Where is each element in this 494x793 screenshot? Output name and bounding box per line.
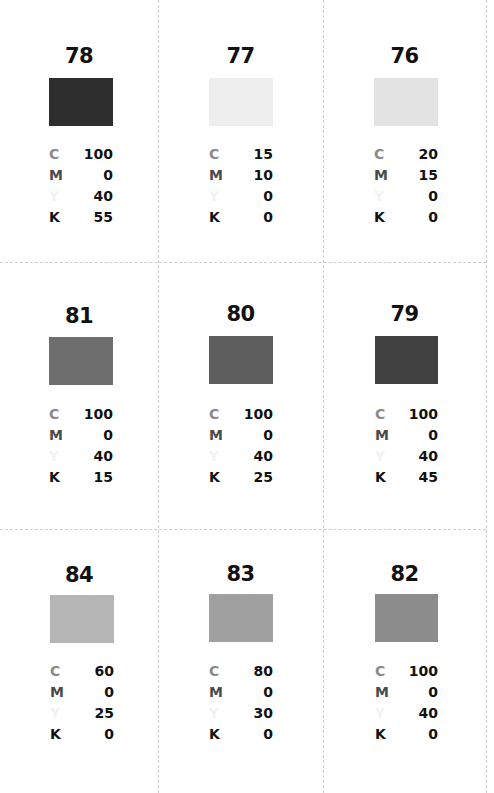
label-y: Y xyxy=(209,446,225,467)
value-k: 0 xyxy=(428,207,438,228)
value-y: 25 xyxy=(95,703,114,724)
label-m: M xyxy=(375,425,391,446)
value-k: 25 xyxy=(254,467,273,488)
label-c: C xyxy=(49,144,65,165)
value-y: 0 xyxy=(263,186,273,207)
color-swatch xyxy=(49,78,113,126)
label-y: Y xyxy=(374,186,390,207)
label-c: C xyxy=(50,661,66,682)
value-k: 0 xyxy=(428,724,438,745)
label-c: C xyxy=(209,661,225,682)
label-k: K xyxy=(49,467,65,488)
label-c: C xyxy=(49,404,65,425)
value-m: 10 xyxy=(254,165,273,186)
value-c: 100 xyxy=(244,404,273,425)
swatch-number: 80 xyxy=(158,302,323,326)
value-c: 60 xyxy=(95,661,114,682)
label-m: M xyxy=(209,165,225,186)
color-swatch xyxy=(50,595,114,643)
label-y: Y xyxy=(50,703,66,724)
cmyk-values: C60 M0 Y25 K0 xyxy=(50,661,114,745)
label-y: Y xyxy=(49,186,65,207)
color-swatch xyxy=(375,594,438,642)
value-k: 45 xyxy=(419,467,438,488)
cmyk-values: C100 M0 Y40 K0 xyxy=(375,661,438,745)
color-swatch xyxy=(49,337,113,385)
label-c: C xyxy=(374,144,390,165)
color-swatch xyxy=(375,336,438,384)
value-y: 40 xyxy=(419,446,438,467)
label-m: M xyxy=(49,425,65,446)
value-y: 40 xyxy=(94,446,113,467)
value-c: 80 xyxy=(254,661,273,682)
label-y: Y xyxy=(49,446,65,467)
value-k: 55 xyxy=(94,207,113,228)
label-m: M xyxy=(209,425,225,446)
value-c: 100 xyxy=(409,404,438,425)
label-c: C xyxy=(209,404,225,425)
value-m: 0 xyxy=(103,425,113,446)
value-k: 0 xyxy=(104,724,114,745)
value-m: 0 xyxy=(428,425,438,446)
label-m: M xyxy=(374,165,390,186)
color-swatch xyxy=(209,336,273,384)
value-y: 40 xyxy=(419,703,438,724)
label-c: C xyxy=(375,404,391,425)
color-swatch xyxy=(209,594,273,642)
cmyk-values: C15 M10 Y0 K0 xyxy=(209,144,273,228)
swatch-number: 84 xyxy=(0,563,158,587)
value-m: 0 xyxy=(263,682,273,703)
value-k: 0 xyxy=(263,207,273,228)
label-m: M xyxy=(375,682,391,703)
label-k: K xyxy=(209,467,225,488)
swatch-card: 84 C60 M0 Y25 K0 xyxy=(0,529,158,793)
label-k: K xyxy=(375,467,391,488)
swatch-number: 79 xyxy=(323,302,486,326)
swatch-card: 76 C20 M15 Y0 K0 xyxy=(323,0,486,262)
swatch-number: 76 xyxy=(323,44,486,68)
swatch-number: 81 xyxy=(0,304,158,328)
value-m: 15 xyxy=(419,165,438,186)
value-c: 20 xyxy=(419,144,438,165)
label-c: C xyxy=(375,661,391,682)
swatch-card: 78 C100 M0 Y40 K55 xyxy=(0,0,158,262)
label-k: K xyxy=(209,724,225,745)
swatch-card: 83 C80 M0 Y30 K0 xyxy=(158,529,323,793)
value-c: 100 xyxy=(84,404,113,425)
label-y: Y xyxy=(375,446,391,467)
value-k: 0 xyxy=(263,724,273,745)
swatch-card: 80 C100 M0 Y40 K25 xyxy=(158,262,323,529)
label-k: K xyxy=(374,207,390,228)
value-y: 40 xyxy=(94,186,113,207)
swatch-number: 78 xyxy=(0,44,158,68)
value-c: 15 xyxy=(254,144,273,165)
cmyk-values: C100 M0 Y40 K55 xyxy=(49,144,113,228)
swatch-number: 77 xyxy=(158,44,323,68)
label-m: M xyxy=(209,682,225,703)
swatch-card: 82 C100 M0 Y40 K0 xyxy=(323,529,486,793)
label-c: C xyxy=(209,144,225,165)
label-m: M xyxy=(50,682,66,703)
value-m: 0 xyxy=(103,165,113,186)
label-y: Y xyxy=(209,703,225,724)
value-y: 40 xyxy=(254,446,273,467)
value-c: 100 xyxy=(84,144,113,165)
swatch-number: 83 xyxy=(158,562,323,586)
label-k: K xyxy=(375,724,391,745)
value-y: 30 xyxy=(254,703,273,724)
value-k: 15 xyxy=(94,467,113,488)
cmyk-values: C80 M0 Y30 K0 xyxy=(209,661,273,745)
label-y: Y xyxy=(375,703,391,724)
cmyk-values: C100 M0 Y40 K15 xyxy=(49,404,113,488)
cmyk-values: C100 M0 Y40 K25 xyxy=(209,404,273,488)
value-m: 0 xyxy=(428,682,438,703)
swatch-number: 82 xyxy=(323,562,486,586)
label-k: K xyxy=(209,207,225,228)
label-m: M xyxy=(49,165,65,186)
value-y: 0 xyxy=(428,186,438,207)
color-swatch xyxy=(209,78,273,126)
label-k: K xyxy=(50,724,66,745)
label-y: Y xyxy=(209,186,225,207)
value-m: 0 xyxy=(104,682,114,703)
swatch-card: 77 C15 M10 Y0 K0 xyxy=(158,0,323,262)
